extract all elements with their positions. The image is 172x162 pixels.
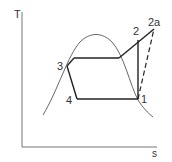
point-1-label: 1: [141, 94, 147, 105]
point-4-label: 4: [66, 95, 72, 106]
t-axis-label: T: [14, 9, 21, 20]
saturation-dome: [43, 35, 153, 118]
point-2-label: 2: [133, 26, 139, 37]
diagram-graphics: [0, 0, 172, 162]
point-2a-label: 2a: [148, 17, 160, 28]
point-3-label: 3: [57, 61, 63, 72]
s-axis-label: s: [152, 149, 157, 159]
ts-diagram: T s 1 2 2a 3 4: [0, 0, 172, 162]
